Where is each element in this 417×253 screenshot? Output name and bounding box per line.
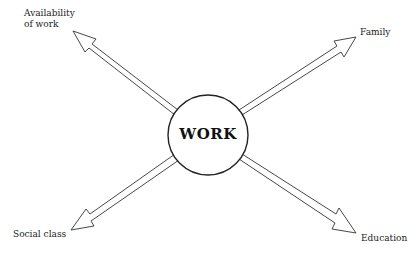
- label-availability-line1: Availability: [24, 8, 75, 19]
- arrow-to-family: [239, 37, 356, 115]
- arrow-to-availability: [73, 31, 178, 115]
- label-availability: Availability of work: [24, 8, 75, 30]
- label-social-class: Social class: [13, 229, 66, 240]
- arrow-to-social-class: [71, 154, 179, 230]
- arrow-to-education: [239, 154, 356, 233]
- label-availability-line2: of work: [24, 19, 75, 30]
- label-family: Family: [360, 27, 390, 38]
- center-label-work: WORK: [168, 125, 248, 143]
- label-education: Education: [361, 233, 407, 244]
